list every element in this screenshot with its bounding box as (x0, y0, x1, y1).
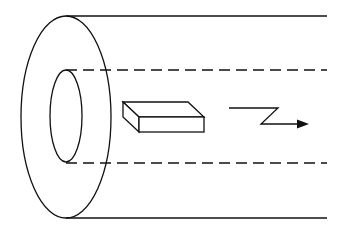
zigzag-arrow (229, 108, 309, 129)
arrowhead-icon (297, 120, 309, 129)
zigzag-arrow-path (229, 108, 302, 124)
inner-ellipse (50, 70, 82, 162)
block-front-face (139, 117, 204, 132)
block (123, 102, 204, 132)
diagram-canvas: Coaxial cylinder (waveguide) with block … (0, 0, 345, 234)
outer-ellipse (21, 16, 111, 218)
